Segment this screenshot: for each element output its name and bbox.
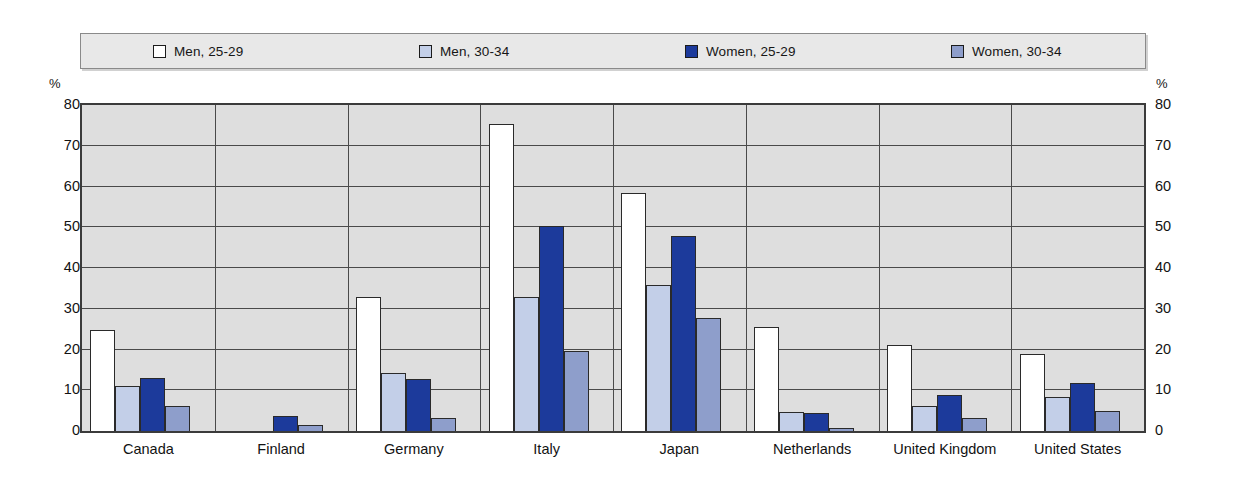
bar-7-0[interactable] [1020, 354, 1045, 431]
bar-3-0[interactable] [489, 124, 514, 431]
y-tick-right-10: 10 [1155, 382, 1195, 397]
bars-1 [223, 105, 323, 431]
bar-0-0[interactable] [90, 330, 115, 431]
bar-5-3[interactable] [829, 428, 854, 431]
y-tick-left-10: 10 [40, 382, 80, 397]
bar-7-3[interactable] [1095, 411, 1120, 431]
bar-5-2[interactable] [804, 413, 829, 431]
chart-legend: Men, 25-29Men, 30-34Women, 25-29Women, 3… [80, 33, 1146, 69]
x-axis-label-1: Finland [215, 441, 348, 457]
bar-2-2[interactable] [406, 379, 431, 431]
x-axis-label-0: Canada [82, 441, 215, 457]
bar-group-2 [348, 105, 481, 431]
x-axis-label-5: Netherlands [746, 441, 879, 457]
bar-6-1[interactable] [912, 406, 937, 431]
bar-group-3 [480, 105, 613, 431]
x-axis-label-7: United States [1011, 441, 1144, 457]
bar-2-3[interactable] [431, 418, 456, 431]
bar-4-1[interactable] [646, 285, 671, 431]
y-tick-right-70: 70 [1155, 138, 1195, 153]
bar-6-0[interactable] [887, 345, 912, 431]
bar-7-2[interactable] [1070, 383, 1095, 431]
y-axis-unit-left: % [49, 76, 61, 91]
bar-0-3[interactable] [165, 406, 190, 431]
bar-5-0[interactable] [754, 327, 779, 431]
bars-6 [887, 105, 987, 431]
chart-figure: Men, 25-29Men, 30-34Women, 25-29Women, 3… [0, 0, 1244, 500]
bar-0-1[interactable] [115, 386, 140, 431]
bar-1-3[interactable] [298, 425, 323, 431]
bars-3 [489, 105, 589, 431]
bars-7 [1020, 105, 1120, 431]
y-tick-left-60: 60 [40, 179, 80, 194]
y-tick-left-30: 30 [40, 301, 80, 316]
bar-group-5 [746, 105, 879, 431]
legend-swatch-men-25-29 [153, 45, 166, 58]
y-tick-right-40: 40 [1155, 260, 1195, 275]
y-tick-left-70: 70 [40, 138, 80, 153]
legend-label-3: Women, 30-34 [972, 44, 1062, 59]
y-tick-left-80: 80 [40, 97, 80, 112]
bar-4-3[interactable] [696, 318, 721, 431]
bar-1-2[interactable] [273, 416, 298, 431]
y-tick-right-0: 0 [1155, 423, 1195, 438]
legend-swatch-women-30-34 [951, 45, 964, 58]
y-tick-right-20: 20 [1155, 342, 1195, 357]
legend-swatch-women-25-29 [685, 45, 698, 58]
legend-label-1: Men, 30-34 [440, 44, 509, 59]
y-tick-left-20: 20 [40, 342, 80, 357]
bars-5 [754, 105, 854, 431]
bar-6-2[interactable] [937, 395, 962, 431]
bar-4-0[interactable] [621, 193, 646, 431]
bar-5-1[interactable] [779, 412, 804, 431]
bar-group-0 [82, 105, 215, 431]
bar-3-2[interactable] [539, 226, 564, 431]
y-tick-right-60: 60 [1155, 179, 1195, 194]
bar-group-4 [613, 105, 746, 431]
bar-0-2[interactable] [140, 378, 165, 431]
bar-group-1 [215, 105, 348, 431]
bar-group-6 [879, 105, 1012, 431]
y-tick-right-50: 50 [1155, 219, 1195, 234]
y-tick-right-80: 80 [1155, 97, 1195, 112]
bar-2-1[interactable] [381, 373, 406, 431]
x-axis-label-3: Italy [480, 441, 613, 457]
y-axis-unit-right: % [1156, 76, 1168, 91]
y-tick-left-0: 0 [40, 423, 80, 438]
bars-2 [356, 105, 456, 431]
y-tick-right-30: 30 [1155, 301, 1195, 316]
legend-label-0: Men, 25-29 [174, 44, 243, 59]
bar-6-3[interactable] [962, 418, 987, 431]
bars-4 [621, 105, 721, 431]
legend-swatch-men-30-34 [419, 45, 432, 58]
legend-item-1[interactable]: Men, 30-34 [347, 44, 613, 59]
legend-item-2[interactable]: Women, 25-29 [613, 44, 879, 59]
plot-area [80, 103, 1146, 433]
bar-7-1[interactable] [1045, 397, 1070, 431]
x-axis-label-6: United Kingdom [879, 441, 1012, 457]
legend-label-2: Women, 25-29 [706, 44, 796, 59]
bars-0 [90, 105, 190, 431]
bar-3-1[interactable] [514, 297, 539, 431]
plot-inner [82, 105, 1144, 431]
y-tick-left-50: 50 [40, 219, 80, 234]
bar-4-2[interactable] [671, 236, 696, 431]
bar-3-3[interactable] [564, 351, 589, 431]
x-axis-label-4: Japan [613, 441, 746, 457]
legend-item-3[interactable]: Women, 30-34 [879, 44, 1145, 59]
bar-group-7 [1011, 105, 1144, 431]
bar-2-0[interactable] [356, 297, 381, 431]
x-axis-label-2: Germany [348, 441, 481, 457]
y-tick-left-40: 40 [40, 260, 80, 275]
legend-item-0[interactable]: Men, 25-29 [81, 44, 347, 59]
